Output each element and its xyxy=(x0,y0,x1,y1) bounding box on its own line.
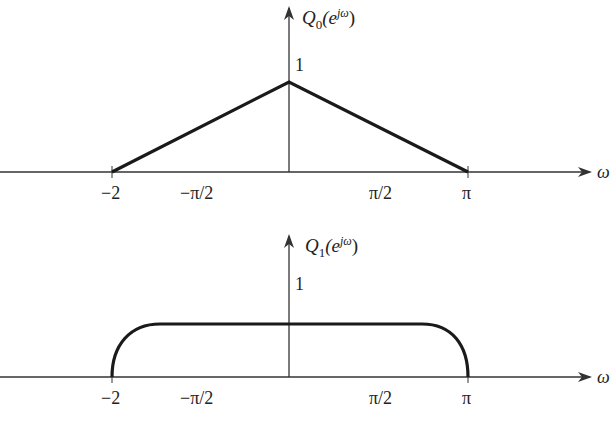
q1-curve xyxy=(112,324,468,377)
q0-x-tick-label-pi-half: π/2 xyxy=(369,183,392,203)
q0-curve xyxy=(112,82,468,172)
q0-x-tick-label-minus2: −2 xyxy=(101,183,120,203)
q0-x-axis-label: ω xyxy=(597,162,610,182)
q1-x-axis-label: ω xyxy=(597,367,610,387)
q0-x-tick-label-minus-pi-half: −π/2 xyxy=(180,183,213,203)
q0-x-tick-label-pi: π xyxy=(462,183,471,203)
q1-ylabel: Q1(ejω) xyxy=(305,234,358,260)
plot-q1: Q1(ejω) 1 −2 −π/2 π/2 π ω xyxy=(0,234,610,408)
q0-ylabel: Q0(ejω) xyxy=(302,6,355,32)
figure-canvas: Q0(ejω) 1 −2 −π/2 π/2 π ω Q1(ejω) 1 −2 −… xyxy=(0,0,613,437)
q1-x-tick-label-pi-half: π/2 xyxy=(369,388,392,408)
q1-x-tick-label-minus-pi-half: −π/2 xyxy=(180,388,213,408)
q1-x-tick-label-pi: π xyxy=(462,388,471,408)
q0-y-tick-1: 1 xyxy=(295,55,304,75)
plot-q0: Q0(ejω) 1 −2 −π/2 π/2 π ω xyxy=(0,6,610,203)
q1-x-tick-label-minus2: −2 xyxy=(101,388,120,408)
q1-y-tick-1: 1 xyxy=(295,274,304,294)
